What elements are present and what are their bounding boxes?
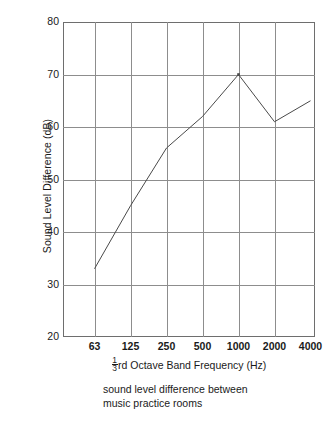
series-layer	[63, 22, 315, 337]
x-axis-title-text: rd Octave Band Frequency (Hz)	[118, 359, 266, 371]
y-tick-label: 50	[19, 174, 59, 185]
y-tick-label: 80	[19, 16, 59, 27]
x-axis-tick-labels: 63 125 250 500 1000 2000 4000	[63, 340, 315, 356]
figure-caption: sound level difference between music pra…	[103, 383, 323, 410]
y-tick-label: 60	[19, 121, 59, 132]
one-third-fraction-glyph: 13	[112, 357, 118, 372]
caption-line-1: sound level difference between	[103, 383, 323, 397]
y-tick-label: 30	[19, 279, 59, 290]
x-tick-label: 4000	[286, 340, 336, 353]
y-tick-label: 70	[19, 69, 59, 80]
y-tick-label: 20	[19, 331, 59, 342]
y-axis-tick-labels: 80 70 60 50 40 30 20	[14, 22, 59, 337]
x-axis-title: 13rd Octave Band Frequency (Hz)	[63, 357, 315, 372]
peak-marker	[237, 73, 240, 76]
chart-figure: Sound Level Difference (dB) 80 70 60 50 …	[0, 0, 336, 422]
fraction-denominator: 3	[112, 365, 118, 372]
plot-area	[63, 22, 315, 337]
y-tick-label: 40	[19, 226, 59, 237]
data-line-sound-level-difference	[95, 75, 311, 269]
caption-line-2: music practice rooms	[103, 397, 323, 411]
